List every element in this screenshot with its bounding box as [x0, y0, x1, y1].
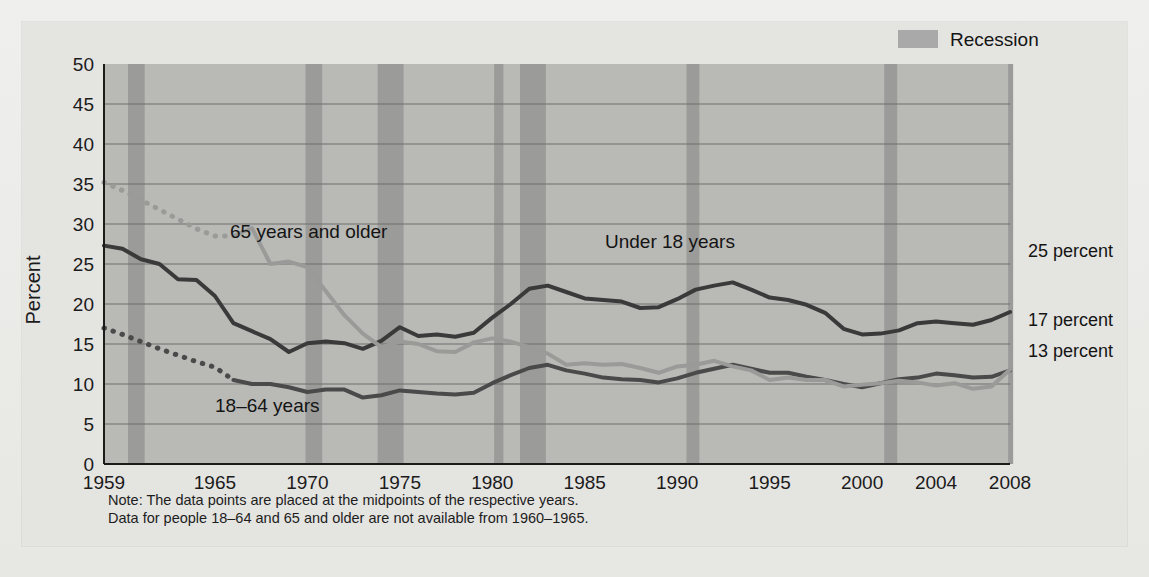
- y-tick-label-50: 50: [73, 54, 94, 75]
- y-tick-label-40: 40: [73, 134, 94, 155]
- series-annotation-1: 18–64 years: [215, 395, 320, 416]
- x-tick-label-2008: 2008: [989, 472, 1031, 493]
- figure-container: 05101520253035404550 1959196519701975198…: [0, 0, 1149, 577]
- end-label-0: 25 percent: [1028, 241, 1113, 261]
- legend: Recession: [898, 29, 1039, 50]
- y-tick-label-25: 25: [73, 254, 94, 275]
- chart-svg: 05101520253035404550 1959196519701975198…: [0, 0, 1149, 577]
- end-label-2: 13 percent: [1028, 341, 1113, 361]
- x-tick-label-1980: 1980: [471, 472, 513, 493]
- x-tick-label-1995: 1995: [748, 472, 790, 493]
- series-annotation-0: 65 years and older: [230, 221, 388, 242]
- y-tick-label-10: 10: [73, 374, 94, 395]
- chart-canvas: 05101520253035404550 1959196519701975198…: [0, 0, 1149, 577]
- note-line-1: Note: The data points are placed at the …: [108, 492, 578, 508]
- y-tick-label-30: 30: [73, 214, 94, 235]
- note-line-2: Data for people 18–64 and 65 and older a…: [108, 510, 588, 526]
- x-tick-label-1985: 1985: [564, 472, 606, 493]
- y-axis-title: Percent: [22, 255, 44, 324]
- recession-legend-swatch: [898, 30, 938, 48]
- end-label-1: 17 percent: [1028, 310, 1113, 330]
- x-tick-label-2004: 2004: [915, 472, 958, 493]
- y-tick-label-35: 35: [73, 174, 94, 195]
- recession-legend-label: Recession: [950, 29, 1039, 50]
- x-tick-label-1990: 1990: [656, 472, 698, 493]
- y-tick-label-15: 15: [73, 334, 94, 355]
- end-labels-group: 25 percent17 percent13 percent: [1028, 241, 1113, 361]
- x-tick-label-1959: 1959: [83, 472, 125, 493]
- x-tick-labels-group: 1959196519701975198019851990199520002004…: [83, 472, 1031, 493]
- series-annotation-2: Under 18 years: [605, 231, 735, 252]
- y-tick-labels-group: 05101520253035404550: [73, 54, 94, 475]
- x-tick-label-1965: 1965: [194, 472, 236, 493]
- y-tick-label-45: 45: [73, 94, 94, 115]
- x-tick-label-1975: 1975: [379, 472, 421, 493]
- y-tick-label-20: 20: [73, 294, 94, 315]
- x-tick-label-1970: 1970: [286, 472, 328, 493]
- x-tick-label-2000: 2000: [841, 472, 883, 493]
- y-tick-label-5: 5: [83, 414, 94, 435]
